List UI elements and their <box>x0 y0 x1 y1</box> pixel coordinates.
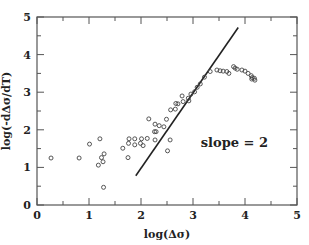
data-point <box>166 149 170 153</box>
data-point <box>157 124 161 128</box>
y-tick-label: 5 <box>23 11 31 24</box>
y-tick-label: 3 <box>23 86 31 99</box>
data-point <box>126 156 130 160</box>
data-point <box>99 156 103 160</box>
x-tick-labels: 012345 <box>33 209 301 222</box>
x-tick-label: 2 <box>137 209 145 222</box>
data-point <box>162 125 166 129</box>
axis-ticks <box>37 17 297 205</box>
y-axis-title: log(-dΔσ/dT) <box>0 72 13 150</box>
slope-annotation: slope = 2 <box>201 135 268 150</box>
x-tick-label: 5 <box>293 209 301 222</box>
data-point <box>138 141 142 145</box>
data-point <box>168 138 172 142</box>
data-point <box>49 156 53 160</box>
data-point <box>121 146 125 150</box>
y-tick-label: 0 <box>23 199 31 212</box>
data-point <box>127 141 131 145</box>
data-point <box>133 143 137 147</box>
data-point <box>164 117 168 121</box>
x-tick-label: 3 <box>189 209 197 222</box>
y-tick-label: 2 <box>23 124 31 137</box>
data-point <box>102 152 106 156</box>
x-tick-label: 1 <box>85 209 93 222</box>
data-point <box>127 137 131 141</box>
data-point <box>173 107 177 111</box>
data-point <box>141 144 145 148</box>
data-point <box>102 185 106 189</box>
data-points <box>49 65 257 190</box>
data-point <box>153 138 157 142</box>
x-tick-label: 0 <box>33 209 41 222</box>
scatter-chart: 012345 012345 slope = 2 log(Δσ) log(-dΔσ… <box>0 0 309 245</box>
data-point <box>180 94 184 98</box>
y-tick-labels: 012345 <box>23 11 31 212</box>
data-point <box>101 160 105 164</box>
data-point <box>140 137 144 141</box>
y-tick-label: 1 <box>23 161 31 174</box>
x-tick-label: 4 <box>241 209 249 222</box>
data-point <box>96 163 100 167</box>
data-point <box>147 117 151 121</box>
x-axis-title: log(Δσ) <box>144 228 190 241</box>
data-point <box>77 156 81 160</box>
data-point <box>145 136 149 140</box>
data-point <box>181 100 185 104</box>
plot-frame <box>37 17 297 205</box>
data-point <box>169 108 173 112</box>
data-point <box>88 142 92 146</box>
data-point <box>153 122 157 126</box>
data-point <box>98 137 102 141</box>
y-tick-label: 4 <box>23 49 31 62</box>
data-point <box>133 137 137 141</box>
